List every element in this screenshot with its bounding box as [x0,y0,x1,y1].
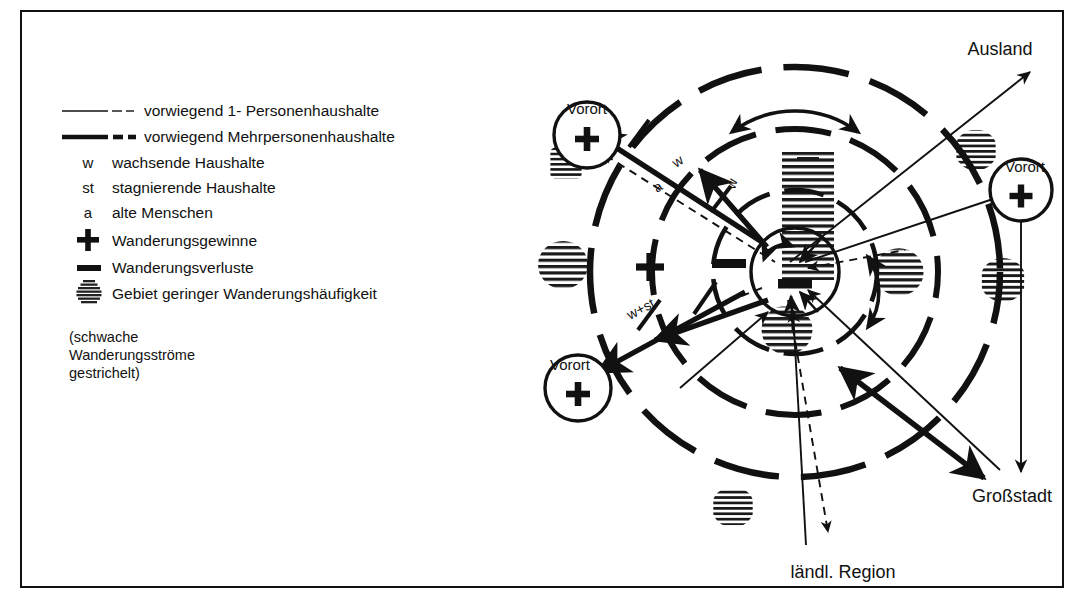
node-vorort-right[interactable]: Vorort [990,158,1052,221]
node-vorort-bottom-left[interactable]: Vorort [545,355,611,421]
legend-row-1: vorwiegend 1- Personenhaushalte [62,102,379,119]
flow-lower-left-thin-to-core [680,312,768,388]
flow-label-w-st: w+st [623,295,657,323]
legend-label-5: alte Menschen [112,204,213,221]
legend-row-4: st stagnierende Haushalte [82,179,276,196]
legend-label-3: wachsende Haushalte [111,154,265,171]
hatched-zone-bottom [713,489,752,525]
vorort-right-label: Vorort [1005,158,1046,175]
hatched-zone-left [536,238,590,292]
flow-label-w-inner: w [722,176,741,192]
legend-note-line-1: (schwache [69,329,138,345]
legend: vorwiegend 1- Personenhaushalte vorwiege… [62,102,395,381]
figure-page: vorwiegend 1- Personenhaushalte vorwiege… [0,0,1085,608]
legend-row-3: w wachsende Haushalte [82,154,265,171]
legend-label-2: vorwiegend Mehrpersonenhaushalte [144,128,395,145]
legend-symbol-st: st [82,179,95,196]
label-grossstadt: Großstadt [972,486,1052,506]
flow-grossstadt-lower-right [840,368,984,478]
hatched-zone-top-wedge [782,140,834,280]
legend-note-line-3: gestrichelt) [69,365,140,381]
legend-row-2: vorwiegend Mehrpersonenhaushalte [62,128,395,145]
legend-row-7: Wanderungsverluste [77,259,254,276]
figure-frame: vorwiegend 1- Personenhaushalte vorwiege… [20,10,1064,588]
legend-note-line-2: Wanderungsströme [69,347,195,363]
flow-label-w: w [668,151,687,171]
zone-sign-minus-middle [712,259,746,268]
legend-label-8: Gebiet geringer Wanderungshäufigkeit [112,285,378,302]
node-vorort-top-left[interactable]: Vorort [554,100,620,168]
legend-row-6: Wanderungsgewinne [77,229,257,251]
label-ausland: Ausland [967,39,1032,59]
legend-row-5: a alte Menschen [84,204,213,221]
legend-label-4: stagnierende Haushalte [112,179,276,196]
vorort-bottom-left-label: Vorort [550,356,591,373]
legend-row-8: Gebiet geringer Wanderungshäufigkeit [77,280,378,303]
legend-symbol-w: w [82,154,94,171]
zone-sign-plus-outer [636,253,664,281]
diagram-canvas: vorwiegend 1- Personenhaushalte vorwiege… [22,12,1062,586]
legend-label-7: Wanderungsverluste [112,259,254,276]
map-diagram: w a w+st w Vorort [536,39,1052,582]
label-laendliche-region: ländl. Region [790,562,895,582]
legend-label-1: vorwiegend 1- Personenhaushalte [144,102,379,119]
plus-icon [77,229,99,251]
legend-note: (schwache Wanderungsströme gestrichelt) [69,329,195,381]
legend-label-6: Wanderungsgewinne [112,232,257,249]
hatched-blob-icon [77,280,102,303]
zone-sign-minus-core [778,279,812,289]
legend-symbol-a: a [84,204,93,221]
minus-icon [77,265,101,271]
vorort-top-left-label: Vorort [567,100,608,117]
hatched-zone-top-cap [797,157,819,160]
core-inflow-se [800,292,818,312]
